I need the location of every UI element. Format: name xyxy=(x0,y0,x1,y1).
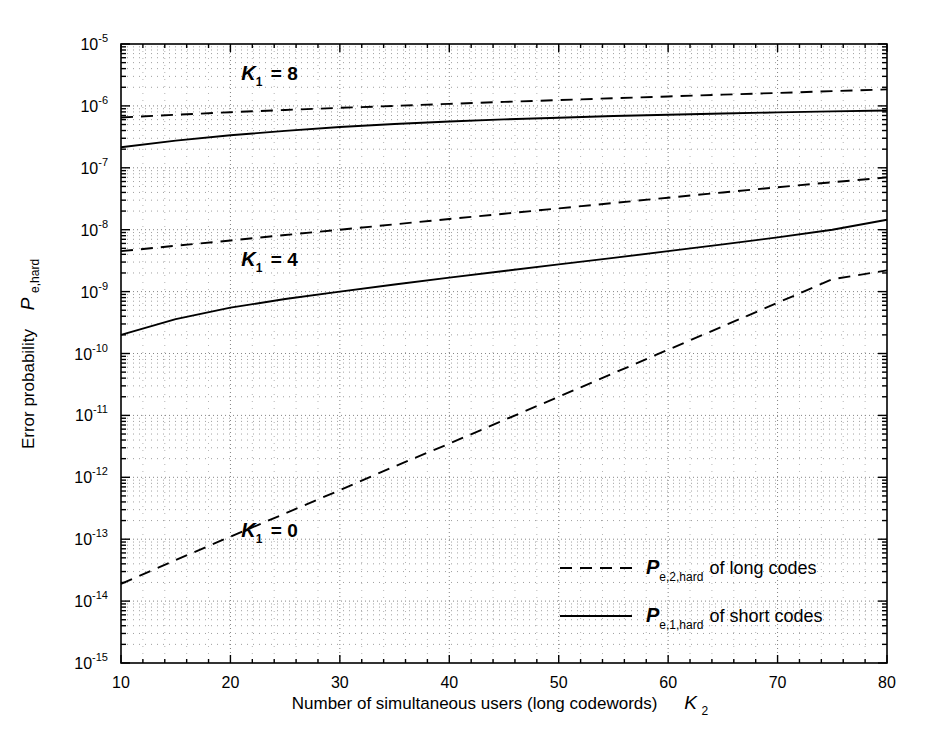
x-axis-label-symbol: K xyxy=(684,692,698,713)
x-tick-label: 50 xyxy=(550,674,568,691)
x-tick-label: 40 xyxy=(440,674,458,691)
error-probability-chart: 10-510-610-710-810-910-1010-1110-1210-13… xyxy=(0,0,930,745)
x-tick-label: 80 xyxy=(878,674,896,691)
x-tick-label: 10 xyxy=(112,674,130,691)
y-axis-label-symbol: P xyxy=(17,297,38,310)
figure-container: 10-510-610-710-810-910-1010-1110-1210-13… xyxy=(0,0,930,745)
x-tick-label: 20 xyxy=(222,674,240,691)
y-axis-label-main: Error probability xyxy=(19,329,38,449)
x-axis-label-subscript: 2 xyxy=(702,704,709,718)
x-axis-label-main: Number of simultaneous users (long codew… xyxy=(292,694,658,713)
x-tick-label: 30 xyxy=(331,674,349,691)
x-tick-label: 60 xyxy=(659,674,677,691)
x-tick-label: 70 xyxy=(769,674,787,691)
y-axis-label-subscript: e,hard xyxy=(28,259,42,293)
